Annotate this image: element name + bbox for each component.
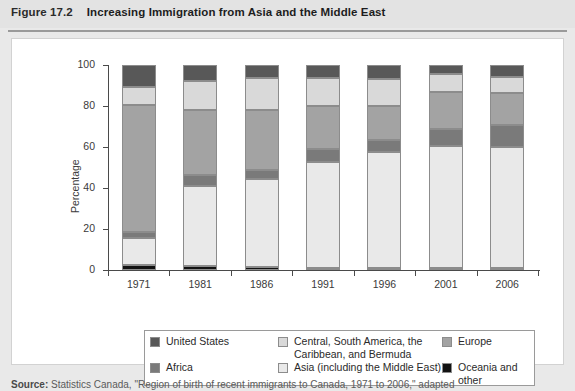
bar-segment[interactable]: [122, 87, 156, 105]
bar-segment[interactable]: [183, 266, 217, 270]
bar-segment[interactable]: [122, 238, 156, 265]
bar-segment[interactable]: [245, 65, 279, 78]
bar-segment[interactable]: [367, 106, 401, 140]
bar-segment[interactable]: [306, 162, 340, 268]
x-tick-label: 2001: [415, 278, 476, 290]
figure-header: Figure 17.2 Increasing Immigration from …: [0, 0, 575, 28]
y-tick-label: 80: [12, 99, 95, 111]
x-tick-mark: [415, 271, 416, 276]
bar-segment[interactable]: [429, 129, 463, 146]
legend-label-asia: Asia (including the Middle East): [294, 361, 441, 374]
bar-segment[interactable]: [306, 78, 340, 106]
legend-label-united-states: United States: [166, 335, 229, 348]
bar-segment[interactable]: [183, 110, 217, 175]
bar-segment[interactable]: [183, 186, 217, 266]
bar-segment[interactable]: [245, 78, 279, 110]
bar-column[interactable]: [183, 65, 217, 270]
bar-segment[interactable]: [429, 146, 463, 268]
bar-segment[interactable]: [367, 140, 401, 152]
legend-swatch-africa: [150, 363, 160, 373]
bar-segment[interactable]: [306, 106, 340, 149]
bar-segment[interactable]: [245, 110, 279, 169]
y-tick-label: 40: [12, 181, 95, 193]
legend-swatch-united-states: [150, 337, 160, 347]
bar-column[interactable]: [122, 65, 156, 270]
x-tick-mark: [354, 271, 355, 276]
legend-swatch-oceania: [442, 363, 452, 373]
y-tick-label: 20: [12, 222, 95, 234]
bar-segment[interactable]: [490, 93, 524, 126]
legend-swatch-central-south-america: [278, 337, 288, 347]
bar-segment[interactable]: [490, 77, 524, 92]
x-tick-mark: [538, 271, 539, 276]
y-tick-label: 60: [12, 140, 95, 152]
legend-label-europe: Europe: [458, 335, 492, 348]
bar-segment[interactable]: [429, 268, 463, 270]
x-tick-mark: [108, 271, 109, 276]
bar-segment[interactable]: [367, 79, 401, 106]
legend-item-united-states[interactable]: United States: [150, 335, 278, 361]
bar-segment[interactable]: [245, 267, 279, 270]
legend-label-central-south-america: Central, South America, the Caribbean, a…: [294, 335, 442, 360]
bar-segment[interactable]: [122, 65, 156, 87]
bar-segment[interactable]: [183, 65, 217, 81]
x-tick-label: 2006: [477, 278, 538, 290]
bar-column[interactable]: [306, 65, 340, 270]
x-tick-label: 1986: [231, 278, 292, 290]
figure-container: Figure 17.2 Increasing Immigration from …: [0, 0, 575, 391]
x-tick-label: 1971: [108, 278, 169, 290]
bar-segment[interactable]: [122, 265, 156, 270]
x-tick-label: 1996: [354, 278, 415, 290]
x-tick-mark: [292, 271, 293, 276]
figure-number: Figure 17.2: [11, 6, 73, 18]
bar-segment[interactable]: [490, 147, 524, 268]
bar-column[interactable]: [245, 65, 279, 270]
bar-segment[interactable]: [429, 92, 463, 129]
source-prefix: Source:: [11, 379, 48, 390]
x-tick-mark: [169, 271, 170, 276]
chart-legend: United StatesCentral, South America, the…: [144, 330, 535, 386]
bar-segment[interactable]: [183, 175, 217, 186]
x-tick-mark: [477, 271, 478, 276]
bar-segment[interactable]: [429, 65, 463, 74]
bar-segment[interactable]: [245, 170, 279, 179]
source-note: Source: Statistics Canada, "Region of bi…: [11, 379, 571, 390]
bar-column[interactable]: [429, 65, 463, 270]
x-tick-mark: [231, 271, 232, 276]
bar-segment[interactable]: [490, 268, 524, 270]
bar-segment[interactable]: [490, 65, 524, 77]
x-axis-line: [108, 270, 540, 271]
source-text: Statistics Canada, "Region of birth of r…: [51, 379, 454, 390]
legend-label-africa: Africa: [166, 361, 193, 374]
bar-segment[interactable]: [367, 152, 401, 268]
bar-segment[interactable]: [367, 65, 401, 79]
x-tick-label: 1991: [292, 278, 353, 290]
bar-segment[interactable]: [306, 268, 340, 270]
y-tick-label: 100: [12, 58, 95, 70]
bar-column[interactable]: [367, 65, 401, 270]
bar-column[interactable]: [490, 65, 524, 270]
bar-segment[interactable]: [306, 65, 340, 78]
bar-segment[interactable]: [183, 81, 217, 110]
legend-item-central-south-america[interactable]: Central, South America, the Caribbean, a…: [278, 335, 442, 361]
legend-item-europe[interactable]: Europe: [442, 335, 530, 361]
bar-segment[interactable]: [245, 179, 279, 267]
bar-segment[interactable]: [490, 125, 524, 147]
bar-segment[interactable]: [306, 149, 340, 162]
legend-swatch-europe: [442, 337, 452, 347]
y-tick-label: 0: [12, 263, 95, 275]
legend-swatch-asia: [278, 363, 288, 373]
figure-header-inner: Figure 17.2 Increasing Immigration from …: [11, 6, 386, 18]
bar-segment[interactable]: [429, 74, 463, 91]
x-tick-label: 1981: [169, 278, 230, 290]
bar-segment[interactable]: [122, 232, 156, 238]
figure-title: Increasing Immigration from Asia and the…: [87, 6, 386, 18]
bar-segment[interactable]: [367, 268, 401, 270]
bar-segment[interactable]: [122, 105, 156, 232]
header-divider: [8, 30, 567, 32]
chart-panel: Percentage 020406080100 1971198119861991…: [11, 38, 564, 365]
plot-area: [108, 65, 538, 270]
